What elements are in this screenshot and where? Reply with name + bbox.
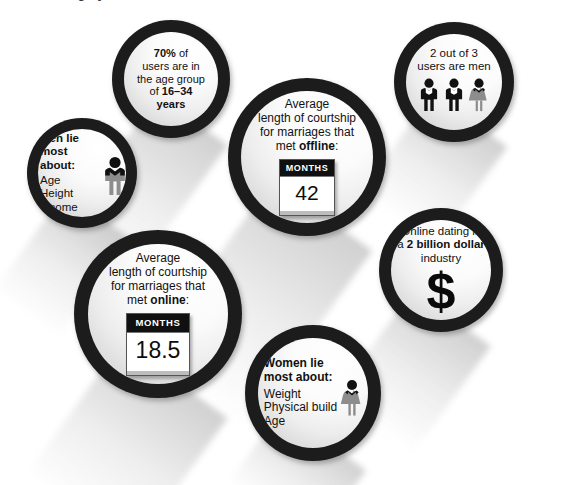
men-lie-item-1: Age [40,174,100,187]
user-ratio-icons [418,77,490,117]
offline-calendar-label: MONTHS [280,160,334,176]
age-group-line-2: users are in [125,60,217,73]
page-title-clipped: Online dating by the numbers [0,0,580,6]
offline-courtship-bubble[interactable]: Average length of courtship for marriage… [228,78,386,236]
offline-keyword: offline [299,139,335,153]
men-lie-bubble-inner: Men lie most about: Age Height Income [38,129,126,217]
industry-value-bubble-inner: Online dating is a 2 billion dollar indu… [391,220,491,320]
online-months-calendar: MONTHS 18.5 [126,313,190,376]
online-courtship-bubble[interactable]: Average length of courtship for marriage… [74,230,242,398]
industry-value-bubble[interactable]: Online dating is a 2 billion dollar indu… [379,208,503,332]
women-lie-heading-line-2: most about: [264,371,337,385]
men-lie-bubble[interactable]: Men lie most about: Age Height Income [27,118,137,228]
men-lie-items: Age Height Income [40,174,100,214]
offline-courtship-line4-suffix: : [335,139,338,153]
offline-courtship-text: Average length of courtship for marriage… [241,98,373,154]
women-lie-item-1: Weight [264,388,337,402]
male-figure-icon [102,156,126,200]
industry-value-amount: 2 billion dollar [407,238,485,250]
women-lie-bubble-inner: Women lie most about: Weight Physical bu… [258,338,368,448]
online-calendar-value: 18.5 [127,332,189,375]
age-group-range: 16–34 [162,85,193,97]
men-lie-text: Men lie most about: Age Height Income [40,132,100,214]
industry-value-line-2: a 2 billion dollar [391,238,491,251]
male-figure-icon [443,77,465,117]
age-group-line1-rest: of [176,47,188,59]
age-group-line4-prefix: of [150,85,162,97]
online-courtship-line-2: length of courtship [88,266,228,280]
online-courtship-line4-prefix: met [127,293,150,307]
online-keyword: online [150,293,185,307]
online-courtship-text: Average length of courtship for marriage… [88,252,228,308]
age-group-line-3: the age group [125,73,217,86]
men-lie-heading-line-1: Men lie [40,132,100,145]
men-lie-item-2: Height [40,187,100,200]
women-lie-heading: Women lie most about: [264,357,337,385]
age-group-percent: 70% [154,47,176,59]
men-lie-item-3: Income [40,201,100,214]
women-lie-items: Weight Physical build Age [264,388,337,430]
offline-courtship-line-2: length of courtship [241,112,373,126]
user-ratio-line-2: users are men [417,60,491,73]
male-figure-icon [418,77,440,117]
age-group-bubble-inner: 70% of users are in the age group of 16–… [124,32,218,126]
age-group-line-4: of 16–34 [125,85,217,98]
dollar-sign-icon: $ [427,267,456,315]
offline-calendar-value: 42 [280,176,334,215]
women-lie-item-3: Age [264,415,337,429]
women-lie-content: Women lie most about: Weight Physical bu… [258,357,368,430]
online-calendar-label: MONTHS [127,314,189,332]
online-courtship-line-4: met online: [88,294,228,308]
age-group-bubble[interactable]: 70% of users are in the age group of 16–… [112,20,230,138]
age-group-text: 70% of users are in the age group of 16–… [125,47,217,111]
men-lie-content: Men lie most about: Age Height Income [38,132,126,214]
infographic-canvas: Online dating by the numbers 70% of user… [0,0,580,485]
women-lie-bubble[interactable]: Women lie most about: Weight Physical bu… [245,325,381,461]
user-ratio-text: 2 out of 3 users are men [417,47,491,74]
men-lie-heading-line-2: most about: [40,145,100,172]
offline-months-calendar: MONTHS 42 [279,159,335,216]
online-courtship-line4-suffix: : [186,293,189,307]
industry-value-line2-prefix: a [397,238,407,250]
men-lie-heading: Men lie most about: [40,132,100,172]
online-courtship-line-1: Average [88,252,228,266]
offline-courtship-line4-prefix: met [276,139,299,153]
industry-value-line-1: Online dating is [391,225,491,238]
offline-courtship-line-1: Average [241,98,373,112]
age-group-line-5: years [125,98,217,111]
user-ratio-bubble-inner: 2 out of 3 users are men [406,34,502,130]
offline-courtship-line-4: met offline: [241,140,373,154]
women-lie-heading-line-1: Women lie [264,357,337,371]
women-lie-text: Women lie most about: Weight Physical bu… [264,357,337,430]
offline-courtship-bubble-inner: Average length of courtship for marriage… [241,91,373,223]
female-figure-icon [468,77,490,117]
online-courtship-line-3: for marriages that [88,280,228,294]
user-ratio-line-1: 2 out of 3 [417,47,491,60]
offline-courtship-line-3: for marriages that [241,126,373,140]
user-ratio-bubble[interactable]: 2 out of 3 users are men [394,22,514,142]
industry-value-text: Online dating is a 2 billion dollar indu… [391,225,491,265]
women-lie-item-2: Physical build [264,401,337,415]
online-courtship-bubble-inner: Average length of courtship for marriage… [88,244,228,384]
female-figure-icon [340,379,364,421]
age-group-line-1: 70% of [125,47,217,60]
